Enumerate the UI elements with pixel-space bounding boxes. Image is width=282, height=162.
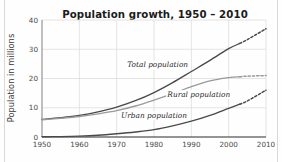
y-axis-label: Population in millions xyxy=(6,34,16,122)
series-projection-rural-population xyxy=(240,76,266,77)
x-tick-label: 2000 xyxy=(220,140,239,149)
y-tick-label: 40 xyxy=(29,16,39,25)
y-tick-label: 30 xyxy=(29,45,39,54)
chart-container: Population growth, 1950 – 2010 Populatio… xyxy=(0,0,282,162)
inline-series-labels: Total populationRural populationUrban po… xyxy=(121,60,232,120)
x-tick-label: 2010 xyxy=(257,140,276,149)
chart-title: Population growth, 1950 – 2010 xyxy=(62,9,248,20)
x-tick-label: 1970 xyxy=(108,140,127,149)
x-tick-label: 1960 xyxy=(70,140,89,149)
series-label-rural-population: Rural population xyxy=(166,90,230,99)
series-label-urban-population: Urban population xyxy=(121,111,187,120)
x-tick-labels: 1950196019701980199020002010 xyxy=(33,140,276,149)
x-tick-label: 1980 xyxy=(145,140,164,149)
population-growth-line-chart: Population growth, 1950 – 2010 Populatio… xyxy=(0,0,282,162)
y-tick-labels: 010203040 xyxy=(29,16,39,142)
series-line-urban-population xyxy=(42,104,240,136)
series-projection-urban-population xyxy=(240,90,266,104)
y-tick-label: 10 xyxy=(29,103,39,112)
x-tick-label: 1950 xyxy=(33,140,52,149)
series-label-total-population: Total population xyxy=(127,60,188,69)
series-projection-total-population xyxy=(240,29,266,44)
y-tick-label: 20 xyxy=(29,74,39,83)
x-tick-label: 1990 xyxy=(182,140,201,149)
